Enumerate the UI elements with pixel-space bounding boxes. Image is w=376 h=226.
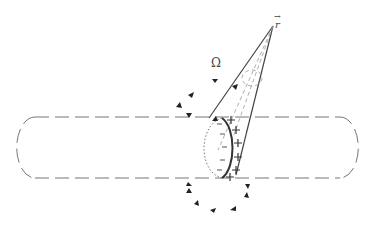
circuit-loop	[17, 117, 359, 178]
minus-charges	[217, 124, 227, 170]
surface-front-edge	[222, 118, 233, 178]
field-arrows-upper	[176, 79, 238, 121]
cone-inner-dashed	[218, 26, 273, 150]
field-arrows-lower	[186, 182, 250, 213]
solid-angle-label: Ω	[211, 56, 221, 70]
point-vector-mark: →	[274, 12, 281, 21]
diagram-canvas: Ω r →	[0, 0, 376, 226]
